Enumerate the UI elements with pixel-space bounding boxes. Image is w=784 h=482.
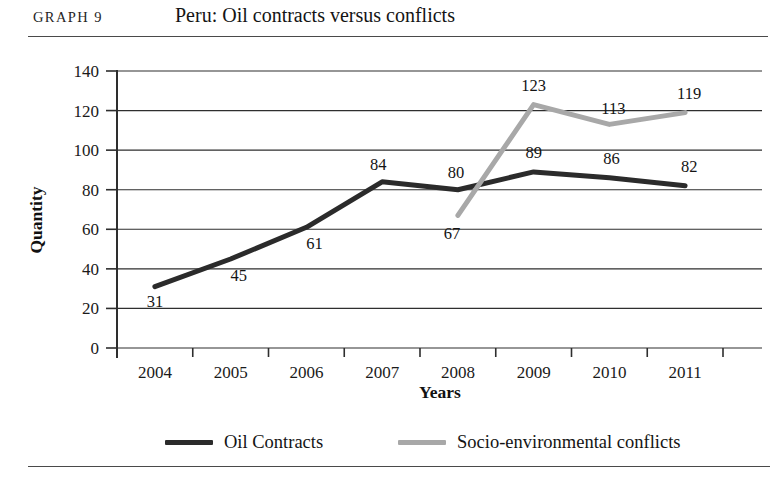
x-tick-label: 2007 <box>365 363 400 382</box>
x-tick-label: 2009 <box>517 363 551 382</box>
y-tick-label: 120 <box>74 102 100 121</box>
data-point-label: 31 <box>147 292 164 311</box>
data-series <box>155 105 685 287</box>
x-tick-label: 2005 <box>214 363 248 382</box>
x-tick-label: 2011 <box>668 363 701 382</box>
data-point-label: 123 <box>521 76 546 95</box>
legend-swatch-icon-socio-environmental-conflicts <box>398 440 446 445</box>
data-point-label: 89 <box>525 143 542 162</box>
data-point-label: 113 <box>601 99 625 118</box>
y-tick-label: 60 <box>82 220 99 239</box>
chart-legend: Oil Contracts Socio-environmental confli… <box>0 430 784 464</box>
x-tick-label: 2004 <box>138 363 173 382</box>
gridlines <box>117 71 762 348</box>
series-line-1 <box>458 105 685 216</box>
y-tick-label: 80 <box>82 181 99 200</box>
data-point-label: 84 <box>370 155 387 174</box>
y-axis-title: Quantity <box>26 186 46 253</box>
y-tick-label: 0 <box>91 339 100 358</box>
data-point-label: 67 <box>444 224 461 243</box>
x-axis-title: Years <box>419 382 461 402</box>
y-tick-label: 100 <box>74 141 100 160</box>
y-axis-tick-labels: 020406080100120140 <box>74 62 100 358</box>
legend-label-socio-environmental-conflicts: Socio-environmental conflicts <box>457 432 680 453</box>
page-title: Peru: Oil contracts versus conflicts <box>175 4 455 27</box>
legend-swatch-icon-oil-contracts <box>165 440 213 445</box>
data-point-label: 80 <box>448 163 465 182</box>
x-tick-label: 2006 <box>289 363 323 382</box>
chart-plot-area: 020406080100120140 200420052006200720082… <box>0 40 784 430</box>
data-point-label: 45 <box>230 266 247 285</box>
x-tick-label: 2008 <box>441 363 475 382</box>
line-chart: 020406080100120140 200420052006200720082… <box>0 40 784 430</box>
header-divider <box>28 36 768 37</box>
x-axis-tick-labels: 20042005200620072008200920102011 <box>138 363 702 382</box>
data-point-label: 86 <box>603 149 620 168</box>
legend-item-oil-contracts[interactable]: Oil Contracts <box>165 432 323 453</box>
graph-header: GRAPH 9 Peru: Oil contracts versus confl… <box>0 0 784 40</box>
data-point-label: 61 <box>306 234 323 253</box>
y-tick-label: 40 <box>82 260 99 279</box>
legend-item-socio-environmental-conflicts[interactable]: Socio-environmental conflicts <box>398 432 680 453</box>
legend-label-oil-contracts: Oil Contracts <box>224 432 323 453</box>
axis-ticks <box>106 71 723 357</box>
footer-divider <box>28 466 770 467</box>
data-point-label: 82 <box>681 157 698 176</box>
x-tick-label: 2010 <box>592 363 626 382</box>
graph-number-label: GRAPH 9 <box>33 9 103 26</box>
y-tick-label: 20 <box>82 299 99 318</box>
y-tick-label: 140 <box>74 62 100 81</box>
data-point-label: 119 <box>677 84 701 103</box>
